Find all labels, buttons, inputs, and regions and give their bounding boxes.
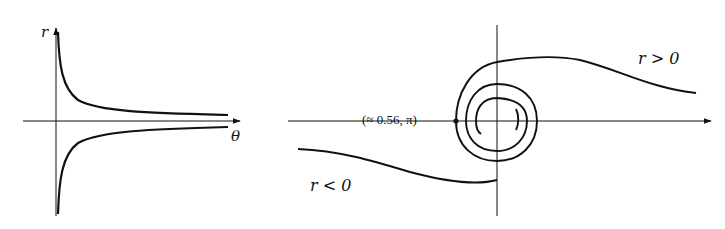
left-theta-label: θ — [231, 127, 240, 145]
point-marker — [453, 118, 458, 123]
point-label: (≈ 0.56, π) — [362, 112, 417, 127]
left-graph: r θ — [23, 23, 240, 216]
upper-branch-curve — [58, 32, 228, 115]
figure-canvas: r θ (≈ 0.56, π) r > 0 r < 0 — [0, 0, 725, 229]
right-graph: (≈ 0.56, π) r > 0 r < 0 — [288, 25, 711, 216]
lower-branch-curve — [58, 127, 228, 214]
left-r-label: r — [41, 23, 49, 41]
spiral-curve — [456, 57, 696, 161]
inner-hook-curve — [516, 109, 518, 130]
r-negative-label: r < 0 — [310, 176, 351, 195]
r-positive-label: r > 0 — [638, 49, 679, 68]
